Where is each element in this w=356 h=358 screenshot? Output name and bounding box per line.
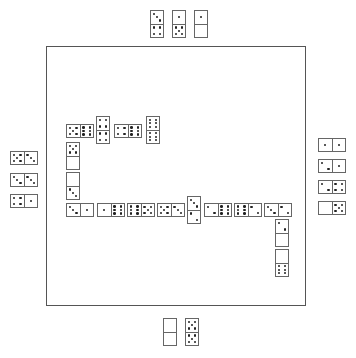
pip — [278, 272, 280, 274]
pip — [341, 189, 343, 191]
pip — [149, 122, 151, 124]
pip — [143, 212, 145, 214]
opponent-right-domino — [318, 180, 346, 194]
board-domino — [264, 203, 292, 217]
pip — [270, 209, 272, 211]
pip-half-0 — [164, 319, 176, 332]
pip-half-4 — [11, 195, 24, 207]
pip-half-6 — [147, 117, 159, 130]
pip — [191, 338, 193, 340]
board-domino — [127, 203, 155, 217]
opponent-right-domino — [318, 159, 346, 173]
pip — [30, 200, 32, 202]
pip — [166, 212, 168, 214]
pip — [19, 197, 21, 199]
pip — [13, 203, 15, 205]
pip — [150, 212, 152, 214]
pip-half-6 — [128, 125, 142, 137]
pip — [136, 209, 138, 211]
pip-half-2 — [188, 210, 200, 224]
pip — [117, 133, 119, 135]
pip — [188, 341, 190, 343]
pip — [220, 205, 222, 207]
pip-half-4 — [97, 117, 109, 130]
pip — [75, 145, 77, 147]
pip — [334, 183, 336, 185]
pip — [99, 125, 101, 127]
pip — [243, 205, 245, 207]
pip — [16, 157, 18, 159]
pip — [200, 16, 202, 18]
pip-half-3 — [11, 174, 24, 186]
pip — [188, 321, 190, 323]
pip — [75, 133, 77, 135]
pip-half-1 — [195, 11, 207, 24]
pip — [188, 327, 190, 329]
pip — [257, 212, 259, 214]
pip-half-5 — [67, 143, 79, 156]
pip-half-0 — [276, 250, 288, 263]
pip — [190, 199, 192, 201]
pip — [334, 189, 336, 191]
pip — [156, 16, 158, 18]
pip — [327, 189, 329, 191]
pip-half-3 — [188, 197, 200, 210]
pip — [177, 209, 179, 211]
pip — [278, 222, 280, 224]
pip — [194, 334, 196, 336]
pip-half-1 — [80, 204, 94, 216]
pip — [173, 206, 175, 208]
pip-half-5 — [186, 332, 198, 346]
pip — [105, 125, 107, 127]
pip-half-0 — [276, 233, 288, 247]
pip-half-1 — [173, 11, 185, 24]
pip — [341, 210, 343, 212]
pip — [178, 16, 180, 18]
pip — [159, 33, 161, 35]
pip — [120, 205, 122, 207]
pip — [237, 205, 239, 207]
player-hand-domino[interactable] — [163, 318, 177, 346]
pip — [69, 127, 71, 129]
board-domino — [157, 203, 185, 217]
board-domino — [66, 124, 94, 138]
pip-half-4 — [151, 24, 163, 38]
pip — [13, 160, 15, 162]
board-domino — [97, 203, 125, 217]
pip — [166, 206, 168, 208]
pip — [153, 33, 155, 35]
pip — [250, 206, 252, 208]
pip — [227, 205, 229, 207]
pip — [19, 203, 21, 205]
pip-half-3 — [24, 174, 38, 186]
pip — [155, 126, 157, 128]
pip — [278, 269, 280, 271]
pip — [99, 132, 101, 134]
opponent-right-domino — [318, 138, 346, 152]
board-domino — [204, 203, 232, 217]
pip-half-1 — [332, 160, 346, 172]
pip — [130, 130, 132, 132]
pip-half-3 — [24, 152, 38, 164]
pip — [194, 321, 196, 323]
pip — [220, 209, 222, 211]
player-hand-domino[interactable] — [185, 318, 199, 346]
pip — [75, 195, 77, 197]
pip — [338, 165, 340, 167]
pip — [321, 183, 323, 185]
pip — [89, 126, 91, 128]
pip — [227, 209, 229, 211]
opponent-top-domino — [194, 10, 208, 38]
pip — [33, 182, 35, 184]
board-domino — [275, 249, 289, 277]
opponent-top-domino — [150, 10, 164, 38]
pip — [72, 209, 74, 211]
board-domino — [114, 124, 142, 138]
pip — [147, 209, 149, 211]
pip-half-5 — [67, 125, 80, 137]
pip-half-5 — [158, 204, 171, 216]
opponent-left-domino — [10, 151, 38, 165]
pip — [69, 145, 71, 147]
pip-half-1 — [24, 195, 38, 207]
pip-half-5 — [11, 152, 24, 164]
